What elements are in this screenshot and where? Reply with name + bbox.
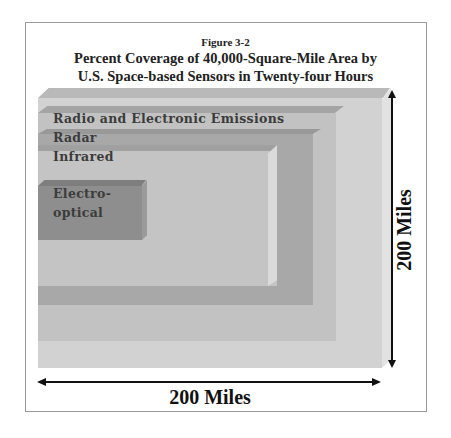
width-dimension-label: 200 Miles bbox=[0, 386, 420, 409]
horizontal-dimension-arrow-icon bbox=[40, 381, 378, 383]
infrared-label: Infrared bbox=[53, 147, 114, 166]
radar-label: Radar bbox=[53, 128, 97, 147]
figure-label: Figure 3-2 bbox=[0, 36, 451, 48]
total-area-top-face bbox=[38, 88, 390, 98]
electro-optical-label-line-1: Electro- bbox=[53, 184, 143, 203]
total-area-side-face bbox=[382, 88, 391, 368]
radio-electronic-label: Radio and Electronic Emissions bbox=[53, 109, 284, 128]
height-dimension-label: 200 Miles bbox=[393, 189, 416, 271]
electro-optical-label: Electro- optical bbox=[53, 184, 143, 222]
figure-title-line-2: U.S. Space-based Sensors in Twenty-four … bbox=[0, 68, 451, 85]
infrared-layer-side-face bbox=[268, 145, 277, 286]
electro-optical-label-line-2: optical bbox=[53, 203, 143, 222]
figure-title-line-1: Percent Coverage of 40,000-Square-Mile A… bbox=[0, 50, 451, 67]
